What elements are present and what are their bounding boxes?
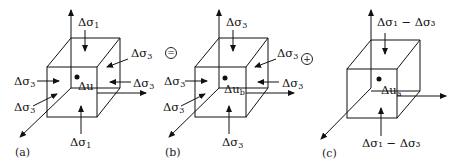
panel-a-right-label: Δσ3 (133, 77, 154, 93)
equals-operator: = (165, 47, 177, 59)
panel-c-bottom-label: Δσ₁ − Δσ₃ (362, 137, 420, 149)
panel-b-bottom-label: Δσ3 (222, 136, 243, 152)
panel-b-top-label: Δσ3 (226, 16, 247, 32)
panel-a-caption: (a) (15, 146, 30, 159)
panel-c-point (377, 77, 382, 82)
panel-c-caption: (c) (322, 147, 337, 160)
panel-b-right-upper-label: Δσ3 (277, 47, 298, 63)
plus-operator: + (301, 53, 313, 65)
panel-c-top-label: Δσ₁ − Δσ₃ (377, 16, 435, 28)
panel-a-left-lower-label: Δσ3 (14, 101, 35, 117)
panel-a-left-upper-label: Δσ3 (14, 75, 35, 91)
panel-a-bottom-label: Δσ1 (70, 136, 91, 152)
panel-b-right-label: Δσ3 (282, 77, 303, 93)
panel-b-center-label: Δub (224, 83, 245, 99)
panel-a-top-label: Δσ1 (78, 16, 99, 32)
panel-b-left-lower-label: Δσ3 (163, 101, 184, 117)
panel-a-right-upper-label: Δσ3 (131, 47, 152, 63)
panel-a-center-label: Δu (78, 80, 94, 96)
panel-b-caption: (b) (165, 146, 181, 159)
panel-b-point (223, 76, 228, 81)
panel-b-left-upper-label: Δσ3 (164, 75, 185, 91)
panel-c-center-label: Δua (381, 84, 402, 100)
panel-c-cube (321, 10, 446, 139)
